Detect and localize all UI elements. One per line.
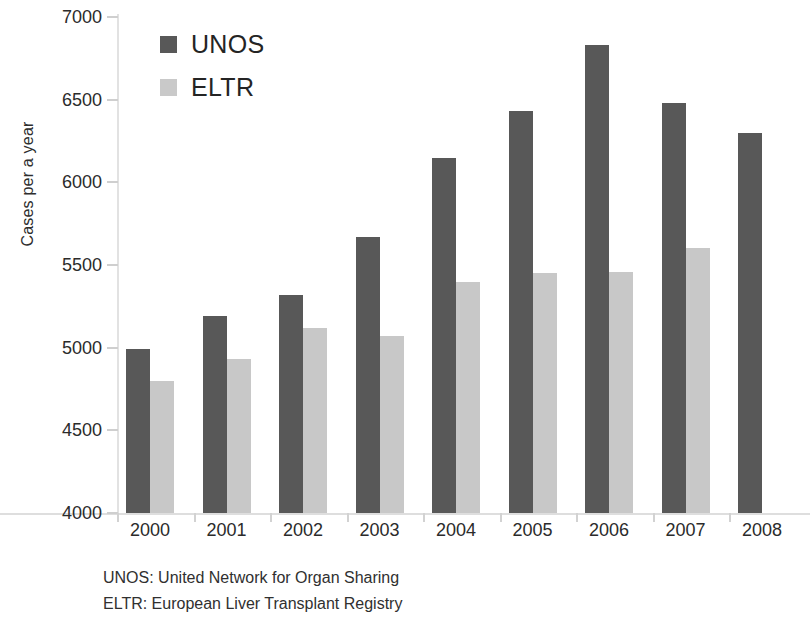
y-tick-mark [107,16,118,18]
bar-unos-2004 [432,158,456,513]
bar-eltr-2003 [380,336,404,513]
bar-unos-2001 [203,316,227,513]
bar-eltr-2007 [686,248,710,513]
bar-eltr-2001 [227,359,251,513]
y-tick-mark [107,429,118,431]
bar-unos-2008 [738,133,762,513]
bar-group [738,17,786,513]
bar-chart-figure: Cases per a year 40004500500055006000650… [0,0,810,626]
bar-unos-2003 [356,237,380,513]
bar-unos-2006 [585,45,609,513]
footnote-2: ELTR: European Liver Transplant Registry [103,591,402,617]
bar-eltr-2005 [533,273,557,513]
legend-swatch-icon [160,36,177,53]
bar-eltr-2004 [456,282,480,513]
bar-group [432,17,480,513]
bar-group [585,17,633,513]
y-axis-label: Cases per a year [19,84,37,284]
bar-eltr-2002 [303,328,327,513]
legend-label: ELTR [191,73,254,102]
bar-unos-2000 [126,349,150,513]
y-tick-mark [107,347,118,349]
y-tick-mark [107,99,118,101]
bar-unos-2007 [662,103,686,513]
bar-group [662,17,710,513]
bar-unos-2002 [279,295,303,513]
bar-eltr-2006 [609,272,633,513]
legend-swatch-icon [160,79,177,96]
y-tick-mark [107,264,118,266]
y-tick-mark [107,181,118,183]
bar-unos-2005 [509,111,533,513]
legend-item-eltr: ELTR [160,73,264,102]
footnote-1: UNOS: United Network for Organ Sharing [103,565,402,591]
bar-group [356,17,404,513]
bar-eltr-2000 [150,381,174,513]
chart-legend: UNOSELTR [160,30,264,116]
bar-group [509,17,557,513]
chart-footnotes: UNOS: United Network for Organ SharingEL… [103,565,402,616]
x-axis-line [0,513,810,515]
x-tick-label-2008: 2008 [717,520,807,541]
legend-label: UNOS [191,30,264,59]
legend-item-unos: UNOS [160,30,264,59]
bar-group [279,17,327,513]
